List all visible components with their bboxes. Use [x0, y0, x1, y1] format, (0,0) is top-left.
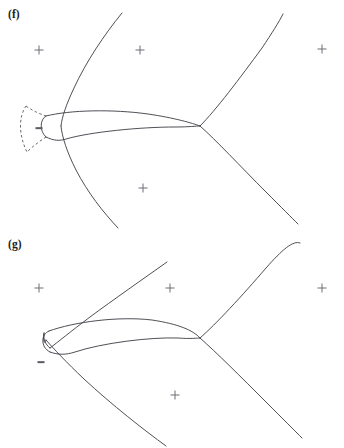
curve-junction-upper-right-branch: [200, 242, 300, 338]
curve-inner-swallowtail-lower-edge: [46, 126, 200, 140]
curve-junction-upper-right-branch: [200, 14, 283, 126]
plus-sign-marker: [318, 284, 327, 293]
curve-junction-lower-right-branch: [200, 338, 302, 438]
plus-sign-marker: [136, 46, 145, 55]
curve-outer-caustic-lower-branch: [61, 126, 118, 228]
curve-outer-caustic-upper-branch: [61, 13, 122, 126]
plus-sign-marker: [139, 184, 148, 193]
minus-sign-marker: [38, 361, 45, 363]
curve-virtual-caustic-outer-arc: [21, 106, 28, 152]
panel-f-curves: [0, 0, 344, 230]
curve-outer-caustic-lower-branch: [46, 340, 166, 446]
curve-outer-caustic-upper-branch: [50, 262, 167, 348]
curve-inner-swallowtail-upper-edge: [46, 111, 200, 126]
curve-inner-swallowtail-upper-edge: [49, 319, 200, 338]
curve-virtual-caustic-upper-arc: [26, 106, 46, 116]
plus-sign-marker: [171, 391, 180, 400]
minus-sign-marker: [36, 127, 43, 129]
curve-virtual-caustic-lower-arc: [27, 137, 46, 152]
curve-inner-swallowtail-lower-edge: [50, 338, 200, 354]
plus-sign-marker: [35, 46, 44, 55]
curve-junction-lower-right-branch: [200, 126, 298, 224]
caustic-singularity-figure: (f) (g): [0, 0, 344, 448]
panel-g: (g): [0, 230, 344, 448]
plus-sign-marker: [166, 284, 175, 293]
panel-g-curves: [0, 230, 344, 448]
panel-f: (f): [0, 0, 344, 230]
plus-sign-marker: [318, 45, 327, 54]
plus-sign-marker: [35, 284, 44, 293]
